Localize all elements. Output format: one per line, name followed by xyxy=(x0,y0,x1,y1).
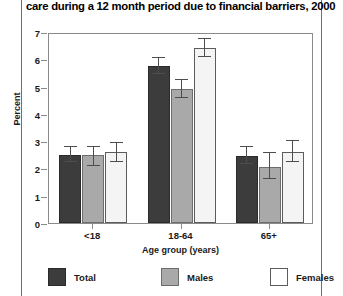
legend-item-males[interactable]: Males xyxy=(161,268,213,286)
chart-legend: TotalMalesFemales xyxy=(48,268,320,290)
bar-rect xyxy=(236,156,258,223)
bar-rect xyxy=(171,89,193,223)
y-tick-mark-4 xyxy=(41,115,47,116)
error-bar xyxy=(204,39,205,57)
error-bar xyxy=(93,147,94,166)
bar-rect xyxy=(194,48,216,223)
error-bar xyxy=(246,147,247,165)
y-tick-mark-2 xyxy=(41,169,47,170)
error-bar-cap-lower xyxy=(240,163,253,164)
plot-area xyxy=(48,33,313,224)
bar-group xyxy=(59,34,127,223)
error-bar-cap-upper xyxy=(263,152,276,153)
legend-swatch-males xyxy=(161,268,179,286)
x-axis-title: Age group (years) xyxy=(48,245,313,255)
error-bar-cap-lower xyxy=(286,161,299,162)
x-tick-label-18-64: 18-64 xyxy=(146,230,216,241)
page-border-right xyxy=(321,0,322,296)
y-tick-2: 2 xyxy=(18,164,40,175)
bar-total-18-64[interactable] xyxy=(148,32,170,223)
legend-swatch-females xyxy=(270,268,288,286)
x-tick-mark xyxy=(92,224,93,229)
error-bar xyxy=(181,80,182,98)
legend-item-total[interactable]: Total xyxy=(48,268,96,286)
error-bar-cap-upper xyxy=(240,146,253,147)
error-bar-cap-upper xyxy=(175,79,188,80)
error-bar-cap-lower xyxy=(64,161,77,162)
bar-rect xyxy=(59,155,81,223)
bar-total-<18[interactable] xyxy=(59,32,81,223)
bar-females-<18[interactable] xyxy=(105,32,127,223)
bar-rect xyxy=(282,152,304,223)
error-bar-cap-upper xyxy=(110,142,123,143)
y-tick-mark-5 xyxy=(41,88,47,89)
bar-females-65+[interactable] xyxy=(282,32,304,223)
y-axis-title: Percent xyxy=(12,79,22,139)
error-bar-cap-lower xyxy=(198,56,211,57)
bar-males-<18[interactable] xyxy=(82,32,104,223)
error-bar xyxy=(292,141,293,161)
y-tick-mark-6 xyxy=(41,60,47,61)
legend-label-females: Females xyxy=(296,272,334,283)
legend-label-total: Total xyxy=(74,272,96,283)
y-tick-mark-0 xyxy=(41,224,47,225)
y-tick-mark-7 xyxy=(41,33,47,34)
chart-page: care during a 12 month period due to fin… xyxy=(0,0,343,296)
y-tick-mark-3 xyxy=(41,142,47,143)
error-bar-cap-lower xyxy=(175,97,188,98)
y-tick-mark-1 xyxy=(41,197,47,198)
error-bar xyxy=(70,147,71,162)
bar-group xyxy=(148,34,216,223)
bar-males-65+[interactable] xyxy=(259,32,281,223)
x-tick-label-<18: <18 xyxy=(57,230,127,241)
y-tick-1: 1 xyxy=(18,191,40,202)
x-tick-label-65+: 65+ xyxy=(234,230,304,241)
x-tick-mark xyxy=(181,224,182,229)
bar-total-65+[interactable] xyxy=(236,32,258,223)
error-bar-cap-lower xyxy=(87,165,100,166)
legend-label-males: Males xyxy=(187,272,213,283)
x-axis-tick-labels: <1818-6465+ xyxy=(48,224,313,246)
y-tick-6: 6 xyxy=(18,55,40,66)
bar-males-18-64[interactable] xyxy=(171,32,193,223)
y-tick-0: 0 xyxy=(18,219,40,230)
error-bar-cap-upper xyxy=(64,146,77,147)
error-bar-cap-upper xyxy=(286,140,299,141)
bars-layer xyxy=(49,34,312,223)
legend-swatch-total xyxy=(48,268,66,286)
bar-rect xyxy=(105,152,127,223)
error-bar-cap-upper xyxy=(87,146,100,147)
bar-rect xyxy=(148,66,170,223)
legend-item-females[interactable]: Females xyxy=(270,268,334,286)
y-tick-7: 7 xyxy=(18,28,40,39)
x-tick-mark xyxy=(269,224,270,229)
error-bar xyxy=(158,58,159,74)
chart-title: care during a 12 month period due to fin… xyxy=(26,0,321,14)
error-bar-cap-upper xyxy=(198,38,211,39)
error-bar-cap-lower xyxy=(110,161,123,162)
error-bar xyxy=(269,153,270,179)
error-bar-cap-lower xyxy=(263,178,276,179)
bar-females-18-64[interactable] xyxy=(194,32,216,223)
error-bar-cap-upper xyxy=(152,57,165,58)
bar-group xyxy=(236,34,304,223)
error-bar-cap-lower xyxy=(152,73,165,74)
error-bar xyxy=(116,143,117,162)
